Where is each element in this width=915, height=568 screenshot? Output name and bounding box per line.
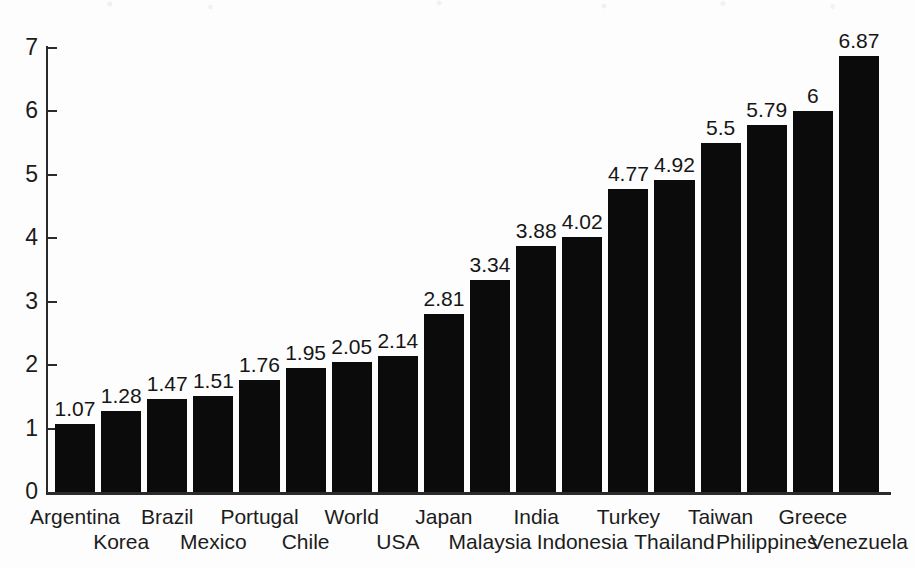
bar-value-label: 4.02 [552,211,612,232]
y-axis-tick-label: 6 [0,99,38,122]
bar [239,380,279,492]
bar [101,411,141,492]
y-axis-tick-label: 1 [0,417,38,440]
y-axis-tick-label: 0 [0,480,38,503]
bar-value-label: 2.14 [368,330,428,351]
bar [654,180,694,492]
bar-value-label: 3.34 [460,254,520,275]
y-axis-tick [46,301,57,303]
bar-value-label: 2.81 [414,288,474,309]
y-axis-tick [46,110,57,112]
bar-chart: 012345671.07Argentina1.28Korea1.47Brazil… [0,0,915,568]
y-axis-tick-label: 7 [0,36,38,59]
bar [747,125,787,492]
bar-value-label: 4.92 [645,154,705,175]
y-axis-tick [46,174,57,176]
y-axis-tick-label: 3 [0,290,38,313]
y-axis-tick [46,47,57,49]
bar-value-label: 5.5 [691,117,751,138]
y-axis-tick [46,364,57,366]
x-axis-category-label: Greece [758,506,868,528]
y-axis-tick-label: 5 [0,163,38,186]
bar [147,399,187,492]
bar [608,189,648,492]
bar [516,246,556,492]
bar [470,280,510,492]
bar-value-label: 6.87 [829,30,889,51]
plot-area: 012345671.07Argentina1.28Korea1.47Brazil… [0,0,915,568]
bar [332,362,372,492]
y-axis-tick-label: 4 [0,226,38,249]
bar [378,356,418,492]
bar [793,111,833,492]
x-axis-baseline [46,492,891,495]
bar [562,237,602,492]
bar [424,314,464,492]
bar [55,424,95,492]
x-axis-category-label: Venezuela [804,531,914,553]
bar [193,396,233,492]
y-axis-tick-label: 2 [0,353,38,376]
bar [286,368,326,492]
bar [839,56,879,492]
y-axis-tick [46,237,57,239]
bar [701,143,741,492]
bar-value-label: 6 [783,85,843,106]
